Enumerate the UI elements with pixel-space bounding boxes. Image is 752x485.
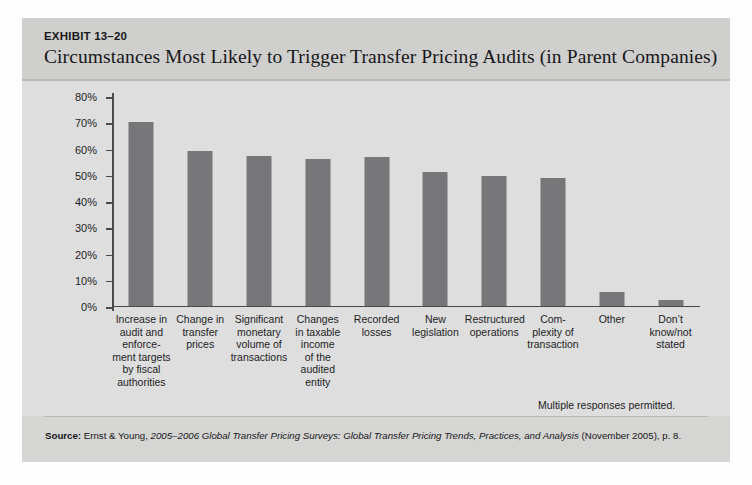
bar[interactable]: [540, 178, 565, 305]
category-label-line: income: [288, 338, 347, 351]
source-trailing: (November 2005), p. 8.: [579, 430, 681, 441]
category-label-line: prices: [171, 338, 230, 351]
source-divider: [44, 416, 708, 417]
bar-slot: [641, 96, 700, 306]
category-label-line: stated: [641, 338, 700, 351]
bar-series: [112, 96, 700, 306]
x-axis-category-label: Significantmonetaryvolume oftransactions: [230, 313, 289, 363]
exhibit-figure: EXHIBIT 13–20 Circumstances Most Likely …: [0, 0, 752, 485]
category-label-line: Increase in: [112, 313, 171, 326]
x-axis-category-label: Change intransferprices: [171, 313, 230, 351]
category-label-line: transactions: [230, 351, 289, 364]
category-label-line: Changes: [288, 313, 347, 326]
exhibit-title: Circumstances Most Likely to Trigger Tra…: [44, 46, 717, 68]
y-axis-tick-label: 10%: [75, 275, 97, 287]
category-label-line: legislation: [406, 326, 465, 339]
category-label-line: Recorded: [347, 313, 406, 326]
category-label-line: authorities: [112, 376, 171, 389]
bar[interactable]: [482, 176, 507, 306]
y-axis-tick-label: 0%: [81, 301, 97, 313]
x-axis-category-labels: Increase inaudit andenforce-ment targets…: [112, 313, 700, 408]
x-axis-category-label: Other: [582, 313, 641, 326]
source-publisher: Ernst & Young,: [81, 430, 150, 441]
category-label-line: entity: [288, 376, 347, 389]
category-label-line: know/not: [641, 326, 700, 339]
y-axis-tick-label: 40%: [75, 196, 97, 208]
bar-slot: [288, 96, 347, 306]
bar[interactable]: [599, 292, 624, 305]
bar[interactable]: [658, 300, 683, 305]
x-axis-category-label: Restructuredoperations: [465, 313, 524, 338]
category-label-line: losses: [347, 326, 406, 339]
y-axis-tick-label: 30%: [75, 222, 97, 234]
exhibit-panel: EXHIBIT 13–20 Circumstances Most Likely …: [22, 18, 730, 462]
category-label-line: Other: [582, 313, 641, 326]
category-label-line: Change in: [171, 313, 230, 326]
bar-slot: [347, 96, 406, 306]
y-axis-tick-label: 70%: [75, 117, 97, 129]
category-label-line: volume of: [230, 338, 289, 351]
bar-slot: [406, 96, 465, 306]
category-label-line: in taxable: [288, 326, 347, 339]
bar[interactable]: [364, 157, 389, 305]
exhibit-number: EXHIBIT 13–20: [44, 30, 127, 42]
bar-slot: [112, 96, 171, 306]
category-label-line: ment targets: [112, 351, 171, 364]
category-label-line: audit and: [112, 326, 171, 339]
bar[interactable]: [188, 151, 213, 306]
bar[interactable]: [246, 156, 271, 306]
bar[interactable]: [423, 172, 448, 306]
bar[interactable]: [305, 159, 330, 306]
source-line: Source: Ernst & Young, 2005–2006 Global …: [45, 430, 681, 441]
category-label-line: New: [406, 313, 465, 326]
category-label-line: Restructured: [465, 313, 524, 326]
y-axis-tick-label: 60%: [75, 144, 97, 156]
exhibit-header: EXHIBIT 13–20 Circumstances Most Likely …: [22, 18, 730, 80]
source-label: Source:: [45, 430, 81, 441]
category-label-line: Don’t: [641, 313, 700, 326]
chart-note: Multiple responses permitted.: [538, 399, 675, 411]
plot-region: 0%10%20%30%40%50%60%70%80%: [112, 97, 700, 307]
x-axis-category-label: Don’tknow/notstated: [641, 313, 700, 351]
x-axis-category-label: Com-plexity oftransaction: [524, 313, 583, 351]
category-label-line: by fiscal: [112, 363, 171, 376]
category-label-line: transaction: [524, 338, 583, 351]
x-axis-category-label: Increase inaudit andenforce-ment targets…: [112, 313, 171, 389]
source-work-title: 2005–2006 Global Transfer Pricing Survey…: [151, 430, 579, 441]
x-axis-line: [112, 306, 700, 308]
category-label-line: of the: [288, 351, 347, 364]
category-label-line: Significant: [230, 313, 289, 326]
chart-area: 0%10%20%30%40%50%60%70%80% Increase inau…: [22, 81, 730, 416]
bar-slot: [465, 96, 524, 306]
y-axis-tick-label: 20%: [75, 249, 97, 261]
bar-slot: [171, 96, 230, 306]
category-label-line: audited: [288, 363, 347, 376]
bar-slot: [230, 96, 289, 306]
x-axis-category-label: Newlegislation: [406, 313, 465, 338]
y-axis-tick-label: 50%: [75, 170, 97, 182]
category-label-line: monetary: [230, 326, 289, 339]
category-label-line: transfer: [171, 326, 230, 339]
category-label-line: enforce-: [112, 338, 171, 351]
bar[interactable]: [129, 122, 154, 306]
category-label-line: plexity of: [524, 326, 583, 339]
category-label-line: Com-: [524, 313, 583, 326]
y-axis-tick-label: 80%: [75, 91, 97, 103]
y-axis-tick: 0%: [106, 307, 112, 309]
category-label-line: operations: [465, 326, 524, 339]
bar-slot: [582, 96, 641, 306]
x-axis-category-label: Recordedlosses: [347, 313, 406, 338]
bar-slot: [524, 96, 583, 306]
x-axis-category-label: Changesin taxableincomeof theauditedenti…: [288, 313, 347, 389]
